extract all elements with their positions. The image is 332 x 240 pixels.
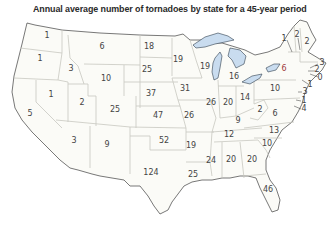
state-label-al: 20	[226, 156, 236, 164]
state-label-ny: 6	[281, 65, 286, 73]
state-label-ms: 24	[206, 157, 216, 165]
state-label-vt: 1	[281, 35, 286, 43]
state-label-mo: 26	[184, 112, 194, 120]
state-label-nc: 13	[269, 127, 279, 135]
state-label-ks: 47	[153, 112, 163, 120]
state-label-wy: 10	[101, 75, 111, 83]
state-label-id: 3	[68, 65, 73, 73]
land	[12, 20, 326, 214]
state-label-nh: 2	[294, 31, 299, 39]
state-label-nv: 1	[48, 91, 53, 99]
state-label-co: 25	[110, 106, 120, 114]
state-label-nm: 9	[104, 141, 109, 149]
state-label-in: 20	[223, 99, 233, 107]
state-label-la: 25	[188, 171, 198, 179]
state-label-sd: 25	[142, 66, 152, 74]
state-label-mn: 19	[173, 56, 183, 64]
state-label-ct: 0	[317, 74, 322, 82]
state-label-ia: 31	[180, 85, 190, 93]
state-label-nj: 1	[307, 81, 312, 89]
state-label-sc: 10	[262, 140, 272, 148]
state-label-fl: 46	[263, 186, 273, 194]
us-outline	[12, 20, 326, 214]
state-label-wi: 19	[200, 63, 210, 71]
state-label-ky: 9	[235, 117, 240, 125]
state-label-ar: 19	[186, 142, 196, 150]
state-label-az: 3	[71, 137, 76, 145]
state-label-dc_md: 4	[301, 105, 306, 113]
state-label-ok: 52	[159, 137, 169, 145]
state-label-tn: 12	[224, 131, 234, 139]
state-label-wa: 1	[44, 32, 49, 40]
state-label-tx: 124	[143, 169, 158, 177]
state-label-oh: 14	[240, 94, 250, 102]
state-label-ga: 20	[247, 156, 257, 164]
state-label-de: 3	[302, 88, 307, 96]
state-label-or: 1	[37, 55, 42, 63]
state-label-ut: 2	[79, 99, 84, 107]
state-label-il: 26	[206, 99, 216, 107]
state-label-ne: 37	[146, 90, 156, 98]
state-label-mt: 6	[99, 43, 104, 51]
state-label-va: 6	[272, 110, 277, 118]
state-label-wv: 2	[257, 106, 262, 114]
state-label-me: 2	[304, 38, 309, 46]
state-label-ca: 5	[27, 110, 32, 118]
state-label-mi: 16	[229, 73, 239, 81]
state-label-ma: 3	[319, 59, 324, 67]
state-label-pa: 10	[270, 85, 280, 93]
state-label-nd: 18	[144, 43, 154, 51]
